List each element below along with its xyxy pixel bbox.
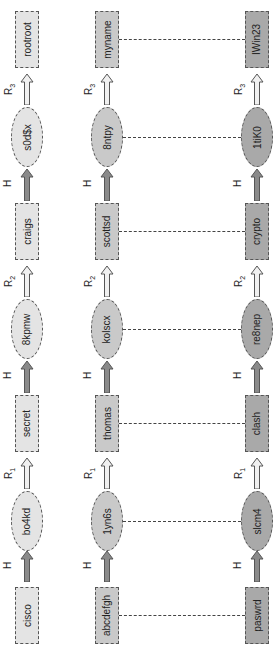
hash-arrow-icon [20, 551, 34, 582]
node-label: 8ntpy [102, 125, 113, 149]
node-label: abcdefgh [102, 595, 113, 636]
hash-node: 8ntpy [91, 107, 123, 167]
plaintext-node: cisco [15, 587, 39, 644]
plaintext-node: clash [245, 395, 269, 452]
node-label: slcm4 [252, 508, 263, 534]
reduce-label: R3 [3, 83, 16, 94]
hash-node: 1tiK0 [241, 107, 273, 167]
hash-label: H [232, 561, 243, 568]
hash-node: s0d$x [11, 107, 43, 167]
plaintext-node: crypto [245, 203, 269, 260]
reduce-arrow-icon [100, 74, 114, 105]
node-label: 1tiK0 [251, 126, 262, 149]
node-label: clash [252, 412, 263, 435]
reduce-label: R3 [233, 83, 246, 94]
plaintext-node: craigs [15, 203, 39, 260]
chain-link [119, 615, 245, 616]
chain-link [119, 231, 245, 232]
node-label: kolscx [101, 315, 112, 343]
hash-arrow-icon [20, 361, 34, 393]
endpoint-node: myname [95, 11, 119, 68]
chain-link [123, 329, 241, 330]
reduce-arrow-icon [100, 458, 114, 489]
node-label: thomas [102, 407, 113, 440]
node-label: scottsd [102, 216, 113, 248]
hash-arrow-icon [250, 169, 264, 201]
endpoint-node: IWin23 [245, 11, 269, 68]
hash-arrow-icon [100, 169, 114, 201]
reduce-arrow-icon [20, 458, 34, 489]
hash-arrow-icon [20, 169, 34, 201]
reduce-arrow-icon [250, 458, 264, 489]
hash-arrow-icon [250, 551, 264, 582]
hash-label: H [2, 372, 13, 379]
node-label: myname [102, 20, 113, 58]
reduce-arrow-icon [250, 266, 264, 297]
hash-label: H [2, 180, 13, 187]
node-label: craigs [22, 218, 33, 245]
reduce-label: R2 [233, 275, 246, 286]
hash-label: H [2, 561, 13, 568]
hash-label: H [82, 372, 93, 379]
plaintext-node: scottsd [95, 203, 119, 260]
plaintext-node: abcdefgh [95, 587, 119, 644]
hash-arrow-icon [100, 551, 114, 582]
node-label: cisco [22, 604, 33, 627]
reduce-arrow-icon [20, 266, 34, 297]
node-label: crypto [252, 218, 263, 245]
node-label: re8nep [252, 313, 263, 344]
reduce-label: R2 [83, 275, 96, 286]
chain-link [123, 521, 241, 522]
hash-arrow-icon [100, 361, 114, 393]
plaintext-node: thomas [95, 395, 119, 452]
hash-label: H [82, 180, 93, 187]
hash-label: H [232, 372, 243, 379]
plaintext-node: paswrd [245, 587, 269, 644]
hash-node: 1yn6s [91, 491, 123, 551]
hash-node: re8nep [241, 299, 273, 359]
reduce-label: R1 [83, 467, 96, 478]
node-label: s0d$x [22, 124, 33, 151]
endpoint-node: rootroot [15, 11, 39, 68]
chain-link [119, 39, 245, 40]
node-label: secret [22, 410, 33, 437]
reduce-label: R1 [233, 467, 246, 478]
node-label: 8kpmw [22, 313, 33, 345]
plaintext-node: secret [15, 395, 39, 452]
hash-label: H [82, 561, 93, 568]
reduce-label: R1 [3, 467, 16, 478]
hash-node: kolscx [91, 299, 123, 359]
node-label: 1yn6s [102, 508, 113, 535]
node-label: rootroot [22, 22, 33, 56]
node-label: IWin23 [252, 24, 263, 55]
node-label: paswrd [252, 599, 263, 631]
chain-link [119, 423, 245, 424]
reduce-arrow-icon [250, 74, 264, 105]
reduce-arrow-icon [20, 74, 34, 105]
hash-node: slcm4 [241, 491, 273, 551]
hash-arrow-icon [250, 361, 264, 393]
reduce-label: R2 [3, 275, 16, 286]
reduce-label: R3 [83, 83, 96, 94]
hash-node: 8kpmw [11, 299, 43, 359]
chain-link [123, 137, 241, 138]
hash-node: bo4kd [11, 491, 43, 551]
hash-label: H [232, 180, 243, 187]
node-label: bo4kd [22, 507, 33, 534]
reduce-arrow-icon [100, 266, 114, 297]
